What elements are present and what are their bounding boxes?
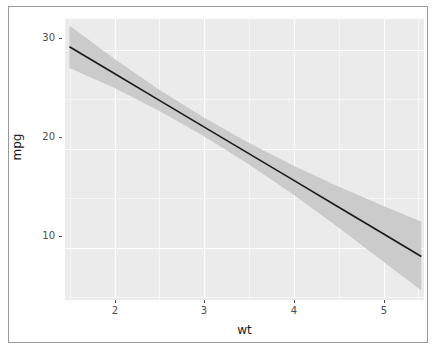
x-tick-label: 5 bbox=[369, 306, 399, 316]
figure-frame: 30 20 10 2 3 4 5 mpg wt bbox=[8, 6, 428, 343]
y-axis-title: mpg bbox=[10, 134, 24, 161]
y-tick-label: 10 bbox=[29, 231, 55, 241]
x-tick-label: 3 bbox=[189, 306, 219, 316]
y-tick-label: 30 bbox=[29, 33, 55, 43]
x-tick-label: 2 bbox=[100, 306, 130, 316]
regression-line bbox=[69, 47, 421, 257]
y-tick-mark bbox=[59, 38, 62, 39]
x-tick-mark bbox=[115, 300, 116, 303]
x-tick-label: 4 bbox=[279, 306, 309, 316]
x-tick-mark bbox=[294, 300, 295, 303]
chart-screenshot: 30 20 10 2 3 4 5 mpg wt bbox=[0, 0, 437, 350]
x-tick-mark bbox=[204, 300, 205, 303]
y-tick-mark bbox=[59, 137, 62, 138]
plot-panel bbox=[65, 19, 424, 300]
y-tick-label: 20 bbox=[29, 132, 55, 142]
confidence-interval-band bbox=[69, 25, 421, 290]
x-axis-title: wt bbox=[65, 323, 424, 337]
x-tick-mark bbox=[384, 300, 385, 303]
regression-plot-svg bbox=[65, 19, 424, 300]
y-tick-mark bbox=[59, 236, 62, 237]
